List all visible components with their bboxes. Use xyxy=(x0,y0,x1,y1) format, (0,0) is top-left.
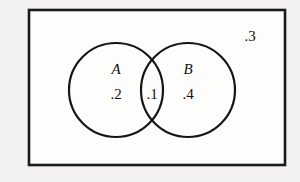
probability-intersection: .1 xyxy=(146,86,157,102)
venn-diagram-canvas: A B .2 .1 .4 .3 xyxy=(0,0,300,182)
probability-a-only: .2 xyxy=(110,86,121,102)
venn-diagram-figure: A B .2 .1 .4 .3 xyxy=(0,0,300,182)
probability-b-only: .4 xyxy=(182,86,194,102)
set-a-label: A xyxy=(110,61,121,77)
set-b-label: B xyxy=(183,61,192,77)
probability-outside: .3 xyxy=(244,28,255,44)
